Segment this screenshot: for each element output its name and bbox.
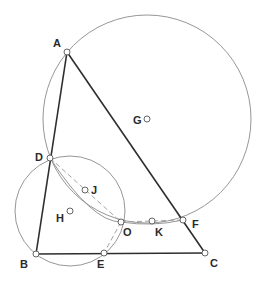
label-k: K — [155, 226, 163, 238]
diagram-svg: A B C D E F G H J K O — [0, 0, 264, 288]
point-b[interactable] — [33, 251, 39, 257]
label-o: O — [123, 226, 132, 238]
point-e[interactable] — [101, 250, 107, 256]
point-k[interactable] — [149, 218, 155, 224]
point-a[interactable] — [64, 49, 70, 55]
label-b: B — [20, 258, 28, 270]
label-a: A — [53, 37, 61, 49]
label-j: J — [91, 184, 97, 196]
label-e: E — [97, 258, 104, 270]
point-o[interactable] — [118, 219, 124, 225]
point-f[interactable] — [180, 217, 186, 223]
segment-b-c — [36, 253, 205, 254]
label-c: C — [210, 257, 218, 269]
label-d: D — [35, 151, 43, 163]
point-d[interactable] — [47, 155, 53, 161]
label-f: F — [192, 218, 199, 230]
point-c[interactable] — [202, 250, 208, 256]
point-g[interactable] — [144, 116, 150, 122]
geometry-diagram: A B C D E F G H J K O — [0, 0, 264, 288]
point-j[interactable] — [82, 187, 88, 193]
label-h: H — [56, 212, 64, 224]
label-g: G — [133, 114, 142, 126]
point-h[interactable] — [67, 208, 73, 214]
